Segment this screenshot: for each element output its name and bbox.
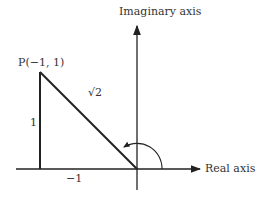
point-label: P(−1, 1)	[18, 56, 64, 69]
vertical-side-label: 1	[30, 116, 37, 129]
real-axis-label: Real axis	[205, 162, 255, 175]
angle-arc	[124, 143, 162, 169]
hypotenuse-label: √2	[88, 86, 102, 99]
imaginary-axis-label: Imaginary axis	[119, 5, 201, 18]
horizontal-side-label: −1	[66, 172, 82, 185]
